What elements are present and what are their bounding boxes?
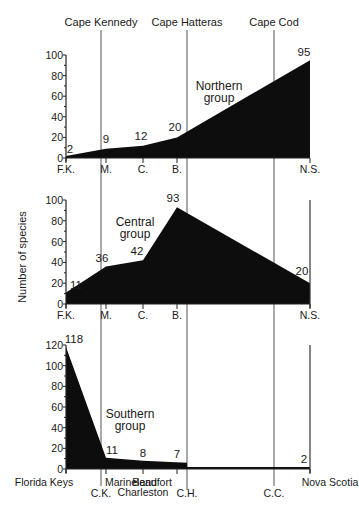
x-tick-label: N.S. xyxy=(300,163,320,175)
central-group-panel: 020406080100F.K.M.C.B.N.S.1136429320 xyxy=(45,192,320,321)
x-tick-label: C. xyxy=(138,309,149,321)
x-tick-label: Florida Keys xyxy=(15,476,73,488)
value-label: 42 xyxy=(131,245,144,257)
y-tick-label: 40 xyxy=(51,111,63,123)
landmark-label: Cape Cod xyxy=(249,16,299,28)
value-label: 2 xyxy=(301,453,307,465)
landmark-label: Cape Kennedy xyxy=(65,16,138,28)
value-label: 12 xyxy=(135,130,148,142)
x-tick-label: Nova Scotia xyxy=(302,476,359,488)
northern-title-line2: group xyxy=(204,91,235,105)
y-tick-label: 60 xyxy=(51,236,63,248)
value-label: 7 xyxy=(174,448,180,460)
xlabel-ch: C.H. xyxy=(177,487,198,499)
y-tick-label: 80 xyxy=(51,380,63,392)
value-label: 11 xyxy=(106,444,118,456)
southern-title-line2: group xyxy=(115,419,146,433)
y-tick-label: 120 xyxy=(45,339,63,351)
y-axis-label: Number of species xyxy=(16,211,28,303)
y-tick-label: 100 xyxy=(45,360,63,372)
x-tick-label: M. xyxy=(100,163,112,175)
value-label: 36 xyxy=(96,252,109,264)
y-tick-label: 20 xyxy=(51,277,63,289)
y-tick-label: 20 xyxy=(51,442,63,454)
area-fill xyxy=(66,347,310,469)
x-tick-label: M. xyxy=(100,309,112,321)
x-tick-label: B. xyxy=(172,309,182,321)
central-title-line2: group xyxy=(120,227,151,241)
x-tick-label: F.K. xyxy=(57,163,75,175)
value-label: 2 xyxy=(67,143,73,155)
y-tick-label: 20 xyxy=(51,131,63,143)
x-tick-label: Beaufort xyxy=(132,476,172,488)
value-label: 8 xyxy=(140,447,146,459)
xlabel-cc: C.C. xyxy=(264,487,285,499)
y-tick-label: 60 xyxy=(51,90,63,102)
y-tick-label: 40 xyxy=(51,422,63,434)
y-tick-label: 40 xyxy=(51,256,63,268)
value-label: 95 xyxy=(298,46,311,58)
value-label: 9 xyxy=(103,133,109,145)
y-tick-label: 80 xyxy=(51,215,63,227)
y-tick-label: 100 xyxy=(45,49,63,61)
value-label: 11 xyxy=(70,279,82,291)
x-tick-label: N.S. xyxy=(300,309,320,321)
landmark-label: Cape Hatteras xyxy=(152,16,223,28)
value-label: 118 xyxy=(65,333,83,345)
value-label: 20 xyxy=(169,121,182,133)
species-distribution-figure: Cape KennedyCape HatterasCape Cod Number… xyxy=(0,0,359,517)
xlabel-ck: C.K. xyxy=(91,487,111,499)
x-tick-label: B. xyxy=(172,163,182,175)
x-tick-label: C. xyxy=(138,163,149,175)
value-label: 20 xyxy=(296,265,309,277)
y-tick-label: 80 xyxy=(51,70,63,82)
y-tick-label: 60 xyxy=(51,401,63,413)
x-tick-label: F.K. xyxy=(57,309,75,321)
y-tick-label: 100 xyxy=(45,194,63,206)
y-tick-label: 0 xyxy=(57,463,63,475)
northern-group-panel: 020406080100F.K.M.C.B.N.S.29122095 xyxy=(45,46,320,175)
value-label: 93 xyxy=(167,192,180,204)
